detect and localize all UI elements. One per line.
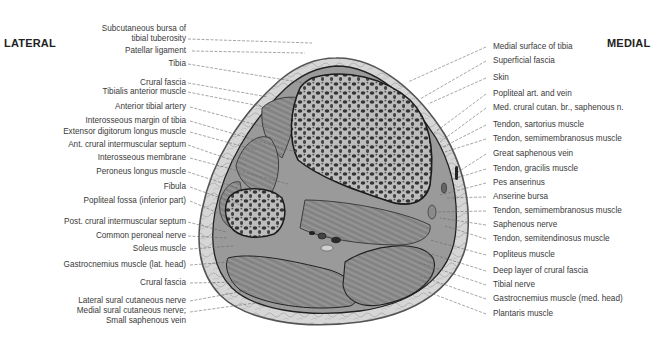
label-line: Medial sural cutaneous nerve; xyxy=(77,306,186,316)
label-subcutaneous-bursa: Subcutaneous bursa of tibial tuberosity xyxy=(102,24,186,43)
label-skin: Skin xyxy=(493,73,509,83)
label-interosseous-membrane: Interosseous membrane xyxy=(98,153,186,163)
label-line: Small saphenous vein xyxy=(77,316,186,326)
label-anterior-tibial-artery: Anterior tibial artery xyxy=(115,102,186,112)
label-soleus: Soleus muscle xyxy=(133,244,186,254)
label-tendon-gracilis: Tendon, gracilis muscle xyxy=(493,164,578,174)
label-great-saphenous-vein: Great saphenous vein xyxy=(493,149,573,159)
label-med-crural-cutan: Med. crural cutan. br., saphenous n. xyxy=(493,103,624,113)
label-extensor-digitorum-longus: Extensor digitorum longus muscle xyxy=(63,127,186,137)
label-medial-surface-tibia: Medial surface of tibia xyxy=(493,42,573,52)
fibula-bone xyxy=(226,189,285,238)
label-post-crural-septum: Post. crural intermuscular septum xyxy=(64,217,186,227)
label-tibialis-anterior: Tibialis anterior muscle xyxy=(103,87,186,97)
label-superficial-fascia: Superficial fascia xyxy=(493,56,555,66)
label-popliteus: Popliteus muscle xyxy=(493,250,555,260)
label-deep-crural-fascia: Deep layer of crural fascia xyxy=(493,266,588,276)
label-ant-crural-septum: Ant. crural intermuscular septum xyxy=(68,140,186,150)
label-crural-fascia-lower: Crural fascia xyxy=(140,278,186,288)
label-plantaris: Plantaris muscle xyxy=(493,309,553,319)
label-tibial-nerve: Tibial nerve xyxy=(493,280,535,290)
label-tendon-semimembranosus-2: Tendon, semimembranosus muscle xyxy=(493,206,622,216)
label-popliteal-art-vein: Popliteal art. and vein xyxy=(493,89,572,99)
label-fibula: Fibula xyxy=(164,182,186,192)
label-gastrocnemius-med: Gastrocnemius muscle (med. head) xyxy=(493,294,623,304)
label-anserine-bursa: Anserine bursa xyxy=(493,192,548,202)
label-lateral-sural-nerve: Lateral sural cutaneous nerve xyxy=(78,296,186,306)
label-line: Subcutaneous bursa of xyxy=(102,24,186,34)
label-tendon-sartorius: Tendon, sartorius muscle xyxy=(493,120,584,130)
label-interosseous-margin: Interosseous margin of tibia xyxy=(85,116,186,126)
label-medial-sural-nerve: Medial sural cutaneous nerve; Small saph… xyxy=(77,306,186,325)
label-peroneus-longus: Peroneus longus muscle xyxy=(96,167,186,177)
label-saphenous-nerve: Saphenous nerve xyxy=(493,220,557,230)
label-common-peroneal-nerve: Common peroneal nerve xyxy=(96,231,186,241)
label-tendon-semitendinosus: Tendon, semitendinosus muscle xyxy=(493,234,610,244)
label-patellar-ligament: Patellar ligament xyxy=(125,46,186,56)
label-line: tibial tuberosity xyxy=(102,34,186,44)
label-popliteal-fossa: Popliteal fossa (inferior part) xyxy=(84,196,186,206)
label-pes-anserinus: Pes anserinus xyxy=(493,178,545,188)
label-tibia: Tibia xyxy=(169,59,186,69)
label-gastrocnemius-lat: Gastrocnemius muscle (lat. head) xyxy=(64,260,186,270)
label-tendon-semimembranosus-1: Tendon, semimembranosus muscle xyxy=(493,134,622,144)
